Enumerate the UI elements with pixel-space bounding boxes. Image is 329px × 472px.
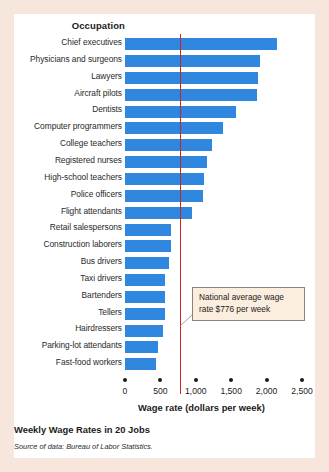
category-label: Bartenders <box>0 290 122 300</box>
figure-source-note: Source of data: Bureau of Labor Statisti… <box>14 442 315 451</box>
bar-row: Dentists <box>14 103 315 120</box>
figure-caption: Weekly Wage Rates in 20 Jobs <box>14 424 315 435</box>
bar-row: Hairdressers <box>14 322 315 339</box>
figure-panel: Occupation Chief executivesPhysicians an… <box>14 14 315 458</box>
category-label: Retail salespersons <box>0 222 122 232</box>
bar-row: Retail salespersons <box>14 221 315 238</box>
category-label: Computer programmers <box>0 121 122 131</box>
x-axis-title: Wage rate (dollars per week) <box>14 402 315 413</box>
bar-row: Fast-food workers <box>14 356 315 373</box>
x-tick-dot <box>265 378 269 382</box>
bar-row: High-school teachers <box>14 171 315 188</box>
occupation-column-header: Occupation <box>14 20 125 31</box>
x-tick-dot <box>229 378 233 382</box>
bar <box>125 274 165 286</box>
bar-row: Parking-lot attendants <box>14 339 315 356</box>
category-label: Physicians and surgeons <box>0 54 122 64</box>
bar-chart-plot-area: Chief executivesPhysicians and surgeonsL… <box>14 36 315 380</box>
category-label: Fast-food workers <box>0 357 122 367</box>
bar <box>125 257 169 269</box>
category-label: High-school teachers <box>0 172 122 182</box>
category-label: Chief executives <box>0 37 122 47</box>
bar-row: Chief executives <box>14 36 315 53</box>
bar <box>125 89 257 101</box>
bar <box>125 207 192 219</box>
bar-row: Physicians and surgeons <box>14 53 315 70</box>
x-tick-dot <box>158 378 162 382</box>
category-label: Lawyers <box>0 71 122 81</box>
category-label: Bus drivers <box>0 256 122 266</box>
national-average-reference-line <box>180 34 181 394</box>
category-label: Registered nurses <box>0 155 122 165</box>
bar-row: Aircraft pilots <box>14 87 315 104</box>
bar <box>125 341 158 353</box>
bar-row: Flight attendants <box>14 205 315 222</box>
bar <box>125 38 277 50</box>
bar-row: Construction laborers <box>14 238 315 255</box>
bar <box>125 72 258 84</box>
category-label: Taxi drivers <box>0 273 122 283</box>
bar <box>125 190 203 202</box>
bar <box>125 308 165 320</box>
category-label: Tellers <box>0 307 122 317</box>
bar <box>125 139 212 151</box>
category-label: Aircraft pilots <box>0 88 122 98</box>
bar <box>125 173 204 185</box>
bar <box>125 325 163 337</box>
bar <box>125 358 156 370</box>
bar-row: Lawyers <box>14 70 315 87</box>
category-label: Dentists <box>0 104 122 114</box>
x-tick-dot <box>123 378 127 382</box>
bar <box>125 240 171 252</box>
bar <box>125 55 260 67</box>
category-label: Police officers <box>0 189 122 199</box>
category-label: Flight attendants <box>0 206 122 216</box>
bar-row: Computer programmers <box>14 120 315 137</box>
category-label: Parking-lot attendants <box>0 340 122 350</box>
x-tick-label: 2,500 <box>280 386 324 396</box>
category-label: College teachers <box>0 138 122 148</box>
bar-row: Bus drivers <box>14 255 315 272</box>
category-label: Hairdressers <box>0 323 122 333</box>
bar <box>125 156 207 168</box>
bar-row: Registered nurses <box>14 154 315 171</box>
bar <box>125 122 223 134</box>
national-average-annotation: National average wage rate $776 per week <box>192 287 305 321</box>
x-tick-dot <box>194 378 198 382</box>
x-tick-dot <box>300 378 304 382</box>
category-label: Construction laborers <box>0 239 122 249</box>
bar-row: Police officers <box>14 188 315 205</box>
bar <box>125 291 165 303</box>
bar-row: College teachers <box>14 137 315 154</box>
bar <box>125 224 171 236</box>
